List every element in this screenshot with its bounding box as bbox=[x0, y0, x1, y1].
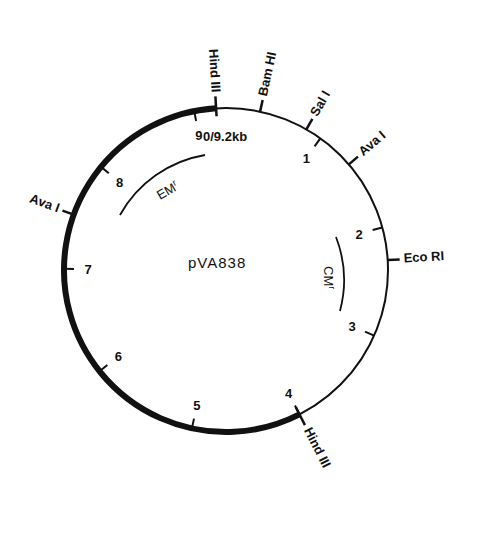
scale-label-9: 9 bbox=[195, 128, 202, 143]
site-tick-ava-i bbox=[349, 157, 358, 165]
scale-label-5: 5 bbox=[193, 398, 200, 413]
site-tick-eco-ri bbox=[388, 259, 400, 260]
site-label-ava-i: Ava I bbox=[355, 128, 388, 159]
site-label-hind-iii: Hind III bbox=[206, 49, 224, 93]
plasmid-name: pVA838 bbox=[188, 254, 246, 271]
thick-segment-arc bbox=[64, 108, 299, 432]
scale-label-3: 3 bbox=[349, 319, 356, 334]
scale-tick-1 bbox=[315, 138, 321, 146]
scale-label-8: 8 bbox=[116, 175, 123, 190]
site-label-hind-iii: Hind III bbox=[301, 425, 334, 470]
scale-label-7: 7 bbox=[84, 262, 91, 277]
site-tick-bam-hi bbox=[260, 100, 263, 112]
site-label-ava-i: Ava I bbox=[28, 191, 62, 216]
scale-label-2: 2 bbox=[356, 227, 363, 242]
scale-label-6: 6 bbox=[115, 349, 122, 364]
svg-text:EMr: EMr bbox=[154, 177, 181, 202]
scale-label-1: 1 bbox=[303, 151, 310, 166]
site-label-bam-hi: Bam HI bbox=[255, 50, 279, 97]
plasmid-map: 123456789 Hind IIIBam HISal IAva IEco RI… bbox=[0, 0, 486, 535]
site-label-eco-ri: Eco RI bbox=[403, 248, 444, 265]
scale-tick-3 bbox=[365, 332, 374, 336]
cmr-gene-arc bbox=[336, 237, 344, 311]
origin-label: 0/9.2kb bbox=[203, 129, 247, 144]
scale-tick-2 bbox=[373, 227, 383, 230]
site-label-sal-i: Sal I bbox=[307, 88, 333, 119]
site-tick-sal-i bbox=[306, 119, 312, 129]
svg-text:CMr: CMr bbox=[321, 266, 337, 289]
emr-gene-label: EMr bbox=[154, 177, 181, 202]
cmr-gene-label: CMr bbox=[321, 266, 337, 289]
site-tick-hind-iii bbox=[215, 96, 216, 116]
scale-label-4: 4 bbox=[285, 386, 293, 401]
